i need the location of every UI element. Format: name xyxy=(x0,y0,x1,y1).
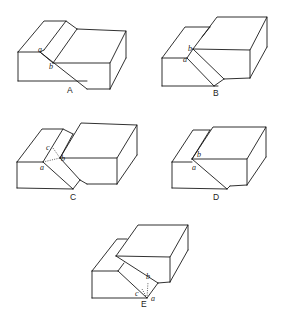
point-a-label: a xyxy=(40,163,44,172)
panel-c: c a b C xyxy=(17,123,137,202)
point-a-label: a xyxy=(183,55,187,64)
panel-a-block-drawing xyxy=(18,21,126,89)
point-b-label: b xyxy=(61,154,65,163)
panel-e-block-drawing xyxy=(92,225,188,298)
point-c-label: c xyxy=(46,143,50,152)
point-b-label: b xyxy=(197,150,201,159)
panel-b-block-drawing xyxy=(162,17,267,86)
point-c-label: c xyxy=(135,289,139,298)
fault-block-diagrams: a b A a b B xyxy=(0,0,282,326)
panel-d-caption: D xyxy=(213,192,219,202)
point-b-label: b xyxy=(188,44,192,53)
panel-c-block-drawing xyxy=(17,123,137,189)
panel-b-caption: B xyxy=(213,88,219,98)
point-b-label: b xyxy=(49,62,53,71)
point-a-label: a xyxy=(151,294,155,303)
panel-d-block-drawing xyxy=(172,127,266,189)
point-a-label: a xyxy=(192,163,196,172)
point-a-label: a xyxy=(38,45,42,54)
panel-b: a b B xyxy=(162,17,267,98)
panel-c-caption: C xyxy=(70,192,76,202)
panel-a: a b A xyxy=(18,21,126,95)
panel-e-caption: E xyxy=(141,299,147,309)
panel-a-caption: A xyxy=(67,85,73,95)
panel-e: b c a E xyxy=(92,225,188,309)
point-b-label: b xyxy=(146,272,150,281)
panel-d: b a D xyxy=(172,127,266,202)
